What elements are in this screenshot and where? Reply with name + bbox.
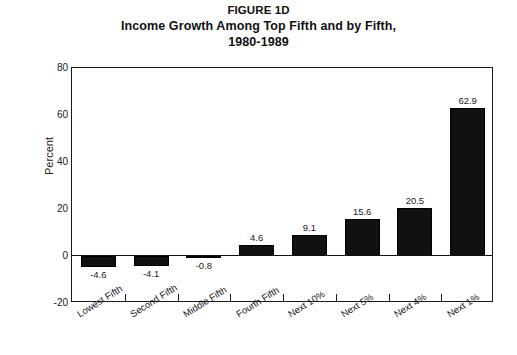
bar-value-label: 9.1 <box>303 222 316 233</box>
title-line-years: 1980-1989 <box>0 34 517 50</box>
y-tick-label: 0 <box>42 250 68 261</box>
bar <box>397 208 432 256</box>
title-line-main: Income Growth Among Top Fifth and by Fif… <box>0 18 517 34</box>
bar-value-label: 62.9 <box>458 95 477 106</box>
plot-area: -4.6-4.1-0.84.69.115.620.562.9 <box>71 67 493 302</box>
x-tick-mark <box>389 294 390 301</box>
chart-title-block: FIGURE 1D Income Growth Among Top Fifth … <box>0 3 517 50</box>
x-tick-mark <box>441 294 442 301</box>
bar <box>186 256 221 258</box>
bar-value-label: -4.1 <box>143 268 159 279</box>
bar <box>450 108 485 256</box>
zero-baseline <box>71 255 493 256</box>
x-tick-mark <box>336 294 337 301</box>
title-line-figure-number: FIGURE 1D <box>0 3 517 18</box>
y-tick-label: -20 <box>42 297 68 308</box>
x-tick-mark <box>178 294 179 301</box>
x-tick-mark <box>283 294 284 301</box>
bar <box>292 235 327 256</box>
y-tick-label: 20 <box>42 203 68 214</box>
figure-1d-chart: FIGURE 1D Income Growth Among Top Fifth … <box>0 0 517 355</box>
bar-value-label: -0.8 <box>196 260 212 271</box>
y-tick-label: 40 <box>42 156 68 167</box>
x-tick-mark <box>230 294 231 301</box>
y-tick-label: 60 <box>42 109 68 120</box>
x-tick-mark <box>125 294 126 301</box>
y-axis-tick-labels: -20020406080 <box>38 67 68 302</box>
bar <box>134 256 169 266</box>
bar-value-label: -4.6 <box>90 269 106 280</box>
bar <box>345 219 380 256</box>
bar-value-label: 15.6 <box>353 206 372 217</box>
bar <box>81 256 116 267</box>
bar-value-label: 4.6 <box>250 232 263 243</box>
plot-inner: -4.6-4.1-0.84.69.115.620.562.9 <box>72 68 492 301</box>
bar-value-label: 20.5 <box>406 195 425 206</box>
y-tick-label: 80 <box>42 62 68 73</box>
